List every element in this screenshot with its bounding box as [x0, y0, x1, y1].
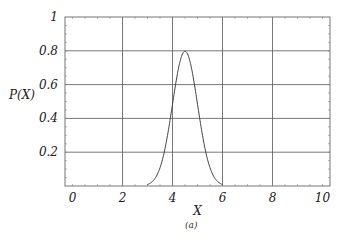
- y-tick-labels: 0.20.40.60.81: [39, 10, 58, 159]
- x-axis-title: X: [192, 204, 202, 218]
- y-tick-label: 0.6: [39, 78, 58, 92]
- y-tick-label: 1: [50, 10, 58, 24]
- x-tick-label: 4: [168, 191, 177, 205]
- series-layer: [148, 51, 223, 184]
- chart: 0246810 0.20.40.60.81 X P(X) (a): [0, 0, 351, 241]
- x-tick-label: 8: [269, 191, 277, 205]
- x-tick-label: 10: [315, 191, 331, 205]
- y-tick-label: 0.4: [39, 111, 58, 125]
- y-tick-label: 0.2: [39, 145, 58, 159]
- x-tick-label: 2: [118, 191, 127, 205]
- x-tick-labels: 0246810: [69, 191, 331, 205]
- x-tick-label: 6: [219, 191, 227, 205]
- x-tick-label: 0: [69, 191, 77, 205]
- y-axis-title: P(X): [8, 88, 35, 102]
- figure-caption: (a): [185, 220, 198, 230]
- series-line: [148, 51, 223, 184]
- y-tick-label: 0.8: [39, 44, 58, 58]
